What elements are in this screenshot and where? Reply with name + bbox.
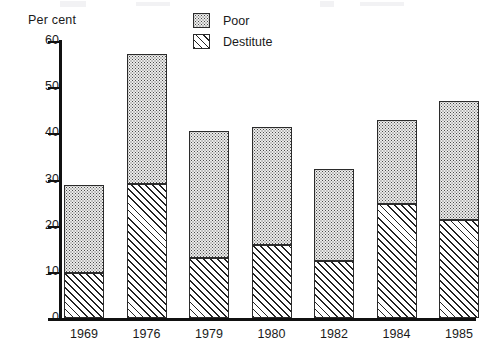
hatch-swatch-icon [193,34,210,49]
bar-1979 [189,131,229,318]
bar-segment-destitute [377,204,417,318]
legend: Poor Destitute [193,11,272,53]
bar-1984 [377,120,417,318]
bar-1980 [252,127,292,318]
y-axis-title: Per cent [28,13,76,27]
y-tick-mark [48,133,59,135]
y-tick-label: 60 [15,33,59,47]
x-tick-label-1976: 1976 [133,327,161,341]
bar-segment-destitute [314,261,354,318]
y-tick-mark [48,226,59,228]
legend-label-poor: Poor [223,14,249,28]
bar-segment-poor [377,120,417,204]
y-tick-label: 40 [15,125,59,139]
bar-1985 [439,101,479,318]
scan-artifact [360,2,404,6]
y-tick-label: 30 [15,172,59,186]
legend-item-poor: Poor [193,11,272,30]
stipple-swatch-icon [193,13,210,28]
y-tick-mark [48,87,59,89]
bar-segment-destitute [127,184,167,318]
x-tick-label-1969: 1969 [70,327,98,341]
bar-segment-poor [189,131,229,258]
bar-chart: Per cent 6050403020100 19691976197919801… [0,0,481,357]
x-tick-label-1980: 1980 [258,327,286,341]
y-tick-label: 0 [15,310,59,324]
bar-segment-destitute [439,220,479,318]
y-tick-mark [48,180,59,182]
x-tick-label-1985: 1985 [445,327,473,341]
bar-1976 [127,54,167,318]
scan-artifact [320,1,334,7]
x-tick-label-1982: 1982 [320,327,348,341]
y-tick-label: 20 [15,218,59,232]
y-tick-label: 10 [15,264,59,278]
scan-artifact [136,2,170,6]
bar-segment-poor [127,54,167,184]
bar-segment-poor [314,169,354,261]
bar-1982 [314,169,354,318]
legend-item-destitute: Destitute [193,32,272,51]
bar-1969 [64,185,104,318]
bar-segment-poor [64,185,104,273]
bar-segment-destitute [64,273,104,318]
y-axis-line [59,40,62,319]
legend-label-destitute: Destitute [223,35,272,49]
x-axis-line [48,318,476,321]
bar-segment-poor [439,101,479,220]
bar-segment-destitute [252,245,292,318]
y-tick-mark [48,41,59,43]
y-tick-label: 50 [15,79,59,93]
y-tick-mark [48,272,59,274]
bar-segment-destitute [189,258,229,318]
scan-artifact [60,1,86,7]
x-tick-label-1979: 1979 [195,327,223,341]
bar-segment-poor [252,127,292,245]
x-tick-label-1984: 1984 [383,327,411,341]
